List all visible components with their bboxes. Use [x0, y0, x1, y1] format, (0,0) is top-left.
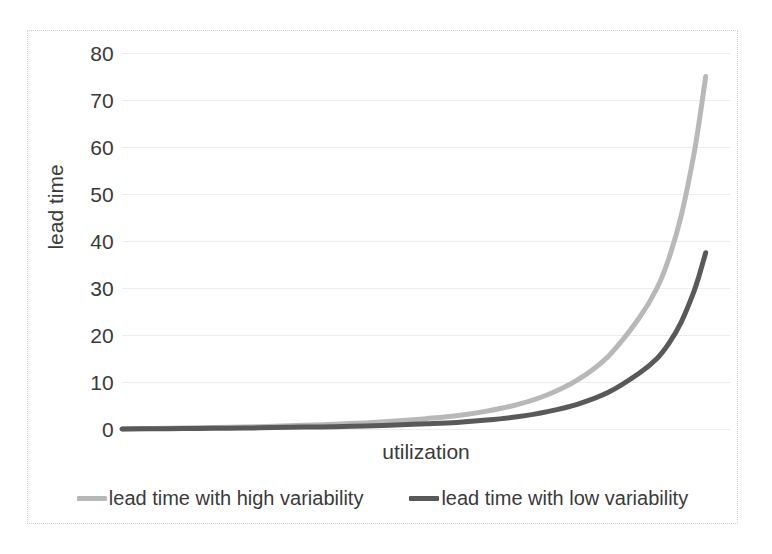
legend-item[interactable]: lead time with low variability	[409, 487, 688, 510]
legend-swatch-icon	[77, 496, 107, 501]
y-axis-tick-label: 20	[68, 325, 114, 346]
plot-area	[122, 53, 730, 429]
legend-label: lead time with low variability	[441, 487, 688, 510]
x-axis-title: utilization	[122, 440, 730, 464]
legend-label: lead time with high variability	[109, 487, 364, 510]
y-axis-tick-label: 50	[68, 184, 114, 205]
legend-swatch-icon	[409, 496, 439, 501]
series-lines-group	[122, 53, 730, 429]
series-line-high-variability	[122, 77, 706, 430]
y-axis-tick-label: 80	[68, 43, 114, 64]
chart-root: 80706050403020100 lead time utilization …	[0, 0, 772, 554]
y-axis-tick-label: 10	[68, 372, 114, 393]
y-axis-tick-label: 30	[68, 278, 114, 299]
y-axis-title: lead time	[44, 137, 68, 277]
series-line-low-variability	[122, 253, 706, 429]
y-axis-tick-label: 60	[68, 137, 114, 158]
y-axis-tick-label: 0	[68, 419, 114, 440]
legend-item[interactable]: lead time with high variability	[77, 487, 364, 510]
y-axis-tick-label: 40	[68, 231, 114, 252]
y-axis-tick-label: 70	[68, 90, 114, 111]
chart-legend: lead time with high variabilitylead time…	[27, 487, 738, 510]
